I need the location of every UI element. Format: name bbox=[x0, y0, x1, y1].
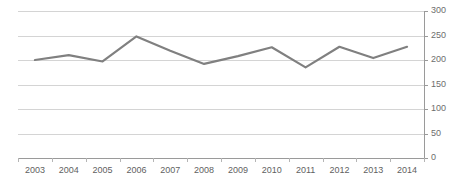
gridline bbox=[18, 109, 424, 110]
x-axis-tick-label: 2004 bbox=[59, 166, 79, 175]
x-axis-tick-mark bbox=[390, 158, 391, 162]
x-axis-tick-mark bbox=[255, 158, 256, 162]
gridline bbox=[18, 60, 424, 61]
x-axis-tick-mark bbox=[52, 158, 53, 162]
y-axis-tick-label: 300 bbox=[431, 6, 446, 15]
x-axis-tick-label: 2012 bbox=[329, 166, 349, 175]
x-axis-tick-mark bbox=[153, 158, 154, 162]
x-axis-tick-label: 2011 bbox=[296, 166, 315, 175]
x-axis-tick-label: 2005 bbox=[93, 166, 113, 175]
x-axis-tick-label: 2003 bbox=[25, 166, 45, 175]
y-axis-tick-label: 50 bbox=[431, 129, 441, 138]
x-axis-tick-mark bbox=[86, 158, 87, 162]
x-axis-tick-label: 2006 bbox=[126, 166, 146, 175]
y-axis-tick-mark bbox=[424, 85, 428, 86]
x-axis-tick-mark bbox=[424, 158, 425, 162]
y-axis-tick-label: 200 bbox=[431, 55, 446, 64]
x-axis-tick-mark bbox=[356, 158, 357, 162]
x-axis-tick-label: 2014 bbox=[397, 166, 417, 175]
y-axis-tick-label: 250 bbox=[431, 31, 446, 40]
y-axis-tick-mark bbox=[424, 36, 428, 37]
gridline bbox=[18, 85, 424, 86]
y-axis-tick-label: 150 bbox=[431, 80, 446, 89]
x-axis-tick-label: 2013 bbox=[363, 166, 383, 175]
x-axis-tick-mark bbox=[221, 158, 222, 162]
x-axis-tick-label: 2007 bbox=[160, 166, 180, 175]
y-axis-tick-mark bbox=[424, 11, 428, 12]
y-axis-tick-mark bbox=[424, 109, 428, 110]
y-axis-tick-mark bbox=[424, 60, 428, 61]
line-chart: 0501001502002503002003200420052006200720… bbox=[0, 0, 449, 183]
y-axis-tick-mark bbox=[424, 134, 428, 135]
x-axis-tick-label: 2009 bbox=[228, 166, 248, 175]
gridline bbox=[18, 134, 424, 135]
plot-area bbox=[18, 11, 424, 158]
x-axis-tick-mark bbox=[323, 158, 324, 162]
gridline bbox=[18, 36, 424, 37]
x-axis-tick-mark bbox=[289, 158, 290, 162]
x-axis-tick-mark bbox=[187, 158, 188, 162]
gridline bbox=[18, 11, 424, 12]
y-axis-tick-label: 100 bbox=[431, 104, 446, 113]
x-axis-tick-mark bbox=[18, 158, 19, 162]
y-axis-tick-label: 0 bbox=[431, 153, 436, 162]
x-axis-tick-mark bbox=[120, 158, 121, 162]
x-axis-tick-label: 2010 bbox=[262, 166, 282, 175]
x-axis-tick-label: 2008 bbox=[194, 166, 214, 175]
